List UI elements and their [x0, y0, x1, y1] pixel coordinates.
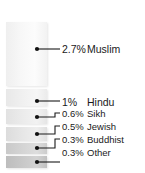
bar-segment-jewish: [6, 127, 47, 141]
data-label-buddhist: 0.3%Buddhist: [62, 135, 124, 145]
bar-segment-other: [6, 156, 47, 168]
data-label-jewish: 0.5%Jewish: [62, 122, 116, 132]
data-label-sikh-name: Sikh: [87, 109, 105, 119]
data-label-other-value: 0.3%: [62, 148, 87, 158]
data-label-muslim: 2.7%Muslim: [62, 44, 120, 55]
data-label-other-name: Other: [87, 148, 111, 158]
data-label-hindu-value: 1%: [62, 97, 87, 108]
data-label-buddhist-value: 0.3%: [62, 135, 87, 145]
bar-segment-muslim: [6, 22, 47, 86]
data-label-hindu-name: Hindu: [87, 97, 114, 108]
bar-segment-sikh: [6, 109, 47, 124]
data-label-hindu: 1%Hindu: [62, 97, 114, 108]
data-label-muslim-value: 2.7%: [62, 44, 87, 55]
stacked-bar-chart: 2.7%Muslim 1%Hindu 0.6%Sikh 0.5%Jewish 0…: [0, 0, 145, 173]
data-label-jewish-name: Jewish: [87, 122, 116, 132]
data-label-muslim-name: Muslim: [87, 44, 120, 55]
bar-segment-hindu: [6, 89, 47, 106]
bar-segment-buddhist: [6, 143, 47, 154]
data-label-sikh-value: 0.6%: [62, 109, 87, 119]
data-label-sikh: 0.6%Sikh: [62, 109, 105, 119]
data-label-other: 0.3%Other: [62, 148, 111, 158]
data-label-jewish-value: 0.5%: [62, 122, 87, 132]
data-label-buddhist-name: Buddhist: [87, 135, 124, 145]
